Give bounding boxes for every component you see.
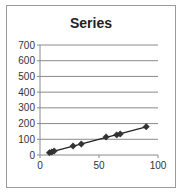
x-tick-label: 0 [37,160,43,171]
data-point-diamond-icon [143,124,149,130]
chart-plot-area: 0100200300400500600700050100 [0,0,182,194]
y-tick-label: 100 [18,134,35,145]
x-tick-label: 50 [93,160,105,171]
data-point-diamond-icon [78,141,84,147]
y-tick-label: 200 [18,118,35,129]
y-tick-label: 400 [18,87,35,98]
y-tick-label: 500 [18,71,35,82]
y-tick-label: 700 [18,40,35,51]
y-tick-label: 600 [18,55,35,66]
data-point-diamond-icon [70,143,76,149]
x-tick-label: 100 [150,160,167,171]
y-tick-label: 300 [18,102,35,113]
y-tick-label: 0 [29,150,35,161]
